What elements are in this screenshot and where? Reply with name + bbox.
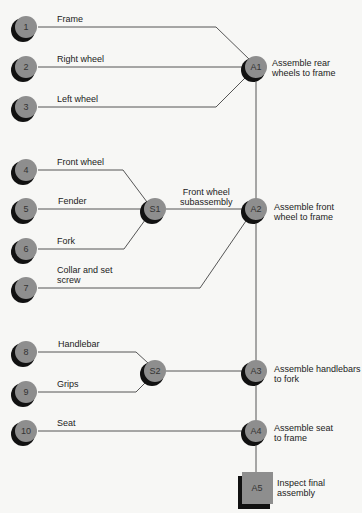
label-line-2: wheels to frame bbox=[272, 68, 336, 78]
component-node-9: 9 bbox=[11, 381, 37, 407]
component-label-right-wheel: Right wheel bbox=[57, 54, 104, 64]
svg-text:5: 5 bbox=[23, 204, 28, 214]
label-line-1: Front wheel bbox=[180, 187, 233, 197]
assembly-node-a1: A1 bbox=[241, 56, 267, 82]
svg-text:2: 2 bbox=[23, 62, 28, 72]
label-line-2: wheel to frame bbox=[274, 212, 334, 222]
component-node-8: 8 bbox=[11, 341, 37, 367]
component-node-5: 5 bbox=[11, 198, 37, 224]
assembly-label-a3: Assemble handlebars to fork bbox=[274, 364, 361, 384]
svg-text:S1: S1 bbox=[149, 204, 160, 214]
component-label-seat: Seat bbox=[57, 418, 76, 428]
component-node-2: 2 bbox=[11, 56, 37, 82]
label-line-2: screw bbox=[57, 275, 113, 285]
component-label-front-wheel: Front wheel bbox=[57, 157, 104, 167]
svg-text:6: 6 bbox=[23, 244, 28, 254]
svg-text:4: 4 bbox=[23, 165, 28, 175]
label-line-1: Assemble seat bbox=[274, 423, 333, 433]
label-line-1: Assemble handlebars bbox=[274, 364, 361, 374]
svg-text:S2: S2 bbox=[149, 366, 160, 376]
component-label-left-wheel: Left wheel bbox=[57, 94, 98, 104]
component-label-fender: Fender bbox=[58, 196, 87, 206]
label-line-1: Inspect final bbox=[277, 478, 325, 488]
component-label-handlebar: Handlebar bbox=[58, 339, 100, 349]
component-label-frame: Frame bbox=[57, 14, 83, 24]
label-line-2: subassembly bbox=[180, 197, 233, 207]
inspection-label-a5: Inspect final assembly bbox=[277, 478, 325, 498]
assembly-node-a3: A3 bbox=[241, 360, 267, 386]
assembly-node-a4: A4 bbox=[241, 420, 267, 446]
label-line-1: Assemble rear bbox=[272, 58, 336, 68]
label-line-1: Assemble front bbox=[274, 202, 334, 212]
component-label-fork: Fork bbox=[57, 236, 75, 246]
node-id: 1 bbox=[23, 22, 28, 32]
label-line-2: assembly bbox=[277, 488, 325, 498]
subassembly-node-s1: S1 bbox=[140, 198, 166, 224]
label-line-1: Collar and set bbox=[57, 265, 113, 275]
component-node-4: 4 bbox=[11, 159, 37, 185]
assembly-label-a4: Assemble seat to frame bbox=[274, 423, 333, 443]
svg-text:A4: A4 bbox=[250, 426, 261, 436]
svg-text:7: 7 bbox=[23, 283, 28, 293]
assembly-node-a2: A2 bbox=[241, 198, 267, 224]
assembly-label-a2: Assemble front wheel to frame bbox=[274, 202, 334, 222]
svg-text:8: 8 bbox=[23, 347, 28, 357]
component-label-collar: Collar and set screw bbox=[57, 265, 113, 285]
label-line-2: to frame bbox=[274, 433, 333, 443]
subassembly-node-s2: S2 bbox=[140, 360, 166, 386]
svg-text:3: 3 bbox=[23, 102, 28, 112]
svg-text:A2: A2 bbox=[250, 204, 261, 214]
subassembly-label-s1: Front wheel subassembly bbox=[180, 187, 233, 207]
svg-text:A5: A5 bbox=[251, 483, 262, 493]
component-node-10: 10 bbox=[11, 420, 37, 446]
component-node-7: 7 bbox=[11, 277, 37, 303]
label-line-2: to fork bbox=[274, 374, 361, 384]
inspection-node-a5: A5 bbox=[238, 472, 273, 509]
component-node-6: 6 bbox=[11, 238, 37, 264]
component-node-3: 3 bbox=[11, 96, 37, 122]
svg-text:9: 9 bbox=[23, 387, 28, 397]
svg-text:10: 10 bbox=[21, 426, 31, 436]
svg-text:A3: A3 bbox=[250, 366, 261, 376]
assembly-label-a1: Assemble rear wheels to frame bbox=[272, 58, 336, 78]
component-node-1: 1 bbox=[11, 16, 37, 42]
svg-text:A1: A1 bbox=[250, 62, 261, 72]
component-label-grips: Grips bbox=[57, 379, 79, 389]
